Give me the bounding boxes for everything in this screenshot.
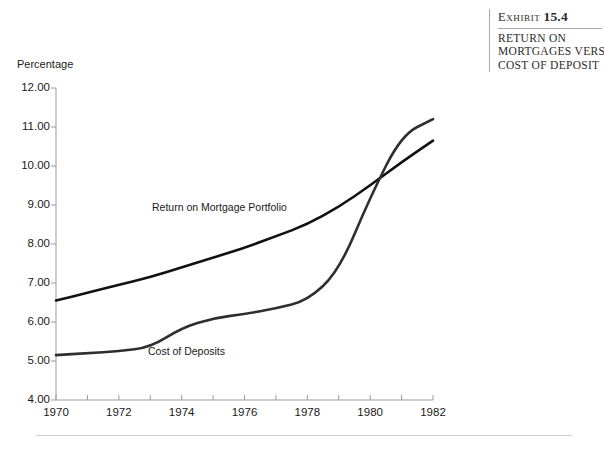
axis-lines <box>56 88 433 400</box>
footer-divider <box>36 435 572 436</box>
y-tick-label: 10.00 <box>6 159 50 171</box>
x-tick-label: 1976 <box>222 406 268 418</box>
y-tick-label: 9.00 <box>6 198 50 210</box>
y-tick-label: 8.00 <box>6 237 50 249</box>
x-tick-label: 1970 <box>33 406 79 418</box>
y-tick-label: 6.00 <box>6 315 50 327</box>
x-tick-label: 1982 <box>410 406 456 418</box>
series-paths <box>56 119 433 355</box>
chart-plot-area <box>0 0 604 450</box>
series-label-return-on-mortgage-portfolio: Return on Mortgage Portfolio <box>152 201 287 213</box>
x-tick-label: 1972 <box>96 406 142 418</box>
y-tick-label: 5.00 <box>6 354 50 366</box>
y-tick-label: 7.00 <box>6 276 50 288</box>
x-tick-label: 1974 <box>159 406 205 418</box>
y-tick-label: 4.00 <box>6 393 50 405</box>
tick-marks <box>51 88 433 400</box>
y-tick-label: 11.00 <box>6 120 50 132</box>
series-label-cost-of-deposits: Cost of Deposits <box>148 345 225 357</box>
y-tick-label: 12.00 <box>6 81 50 93</box>
x-tick-label: 1978 <box>284 406 330 418</box>
line-chart: Percentage 12.0011.0010.009.008.007.006.… <box>0 0 604 450</box>
x-tick-label: 1980 <box>347 406 393 418</box>
